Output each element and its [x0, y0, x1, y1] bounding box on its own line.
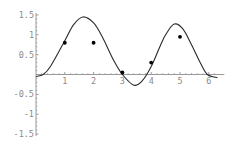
x-tick-label: 4 — [149, 76, 154, 86]
data-point — [149, 61, 153, 65]
y-axis-ticks: 1.510.5-0.5-1-1.5 — [14, 10, 39, 139]
x-tick-label: 1 — [62, 76, 67, 86]
y-tick-label: 0.5 — [19, 50, 34, 60]
data-point — [92, 41, 96, 45]
y-tick-label: 1 — [29, 30, 34, 40]
data-point — [178, 35, 182, 39]
chart-plot: 123456 1.510.5-0.5-1-1.5 — [0, 0, 229, 144]
y-tick-label: -1 — [24, 109, 34, 119]
data-point — [121, 71, 125, 75]
y-tick-label: 1.5 — [19, 10, 34, 20]
data-point — [63, 41, 67, 45]
x-tick-label: 2 — [91, 76, 96, 86]
x-tick-label: 5 — [177, 76, 182, 86]
y-tick-label: -0.5 — [14, 89, 34, 99]
axes — [36, 13, 224, 136]
data-points — [63, 35, 182, 75]
y-tick-label: -1.5 — [14, 129, 34, 139]
x-tick-label: 6 — [206, 76, 211, 86]
